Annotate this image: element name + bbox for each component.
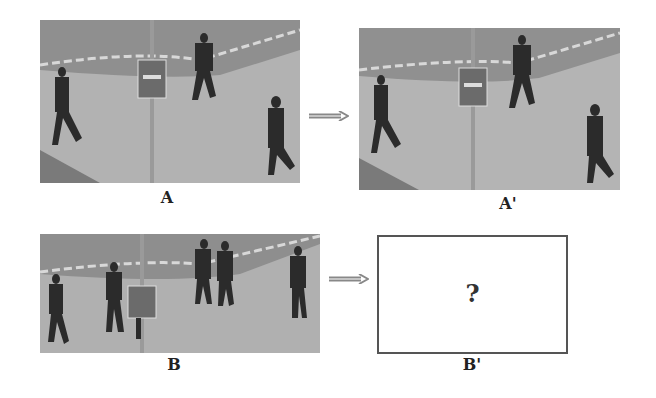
unknown-output-panel: ? bbox=[377, 235, 568, 354]
image-panel-a bbox=[40, 20, 300, 183]
double-line-arrow-right-icon bbox=[309, 106, 349, 116]
panel-label-b-prime: B' bbox=[452, 355, 492, 374]
image-panel-b bbox=[40, 234, 320, 353]
panel-label-a-prime: A' bbox=[488, 194, 528, 213]
double-line-arrow-right-icon bbox=[329, 269, 369, 279]
pedestrian-scene-image bbox=[359, 28, 620, 190]
panel-label-a: A bbox=[147, 188, 187, 207]
image-panel-a-prime bbox=[359, 28, 620, 190]
pedestrian-scene-image bbox=[40, 20, 300, 183]
question-mark: ? bbox=[379, 279, 566, 308]
pedestrian-scene-image bbox=[40, 234, 320, 353]
panel-label-b: B bbox=[154, 355, 194, 374]
